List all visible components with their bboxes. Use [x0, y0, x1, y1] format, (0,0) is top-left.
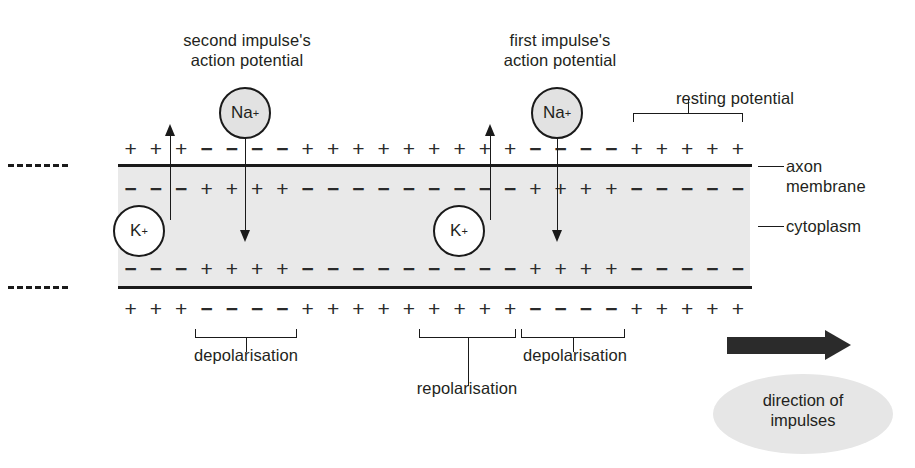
ion-potassium-right: K+: [433, 205, 485, 257]
charge-symbol: +: [219, 178, 244, 200]
axon-continuation-dash-bottom: [8, 286, 68, 289]
axon-continuation-dash-top: [8, 164, 68, 167]
charge-symbol: −: [270, 138, 295, 160]
charge-symbol: −: [396, 178, 421, 200]
charge-symbol: −: [295, 178, 320, 200]
charge-symbol: +: [599, 258, 624, 280]
charge-symbol: −: [219, 298, 244, 320]
label-second-impulse-action-potential: second impulse's action potential: [183, 30, 311, 70]
charge-symbol: +: [472, 138, 497, 160]
axon-membrane-top-line: [118, 164, 752, 167]
charge-symbol: +: [447, 138, 472, 160]
charge-symbol: +: [295, 298, 320, 320]
charge-symbol: +: [523, 178, 548, 200]
charge-symbol: +: [371, 298, 396, 320]
charge-symbol: +: [700, 138, 725, 160]
charge-row-outer-bottom: +++−−−−+++++++++−−−−+++++: [118, 298, 750, 320]
charge-symbol: −: [649, 258, 674, 280]
bracket-tick-right: [742, 113, 743, 122]
charge-symbol: −: [497, 258, 522, 280]
charge-symbol: −: [599, 298, 624, 320]
charge-symbol: −: [169, 178, 194, 200]
leader-line-axon-membrane: [758, 166, 784, 167]
charge-symbol: +: [169, 138, 194, 160]
charge-symbol: +: [320, 298, 345, 320]
charge-symbol: −: [320, 258, 345, 280]
charge-symbol: +: [194, 258, 219, 280]
charge-symbol: +: [396, 138, 421, 160]
charge-symbol: +: [573, 258, 598, 280]
charge-symbol: −: [624, 258, 649, 280]
charge-symbol: −: [422, 258, 447, 280]
charge-symbol: −: [725, 258, 750, 280]
charge-symbol: +: [497, 138, 522, 160]
bracket-tick-right: [296, 329, 297, 338]
charge-symbol: −: [700, 178, 725, 200]
charge-symbol: +: [725, 138, 750, 160]
charge-symbol: +: [725, 298, 750, 320]
charge-row-inner-bottom: −−−++++−−−−−−−−−++++−−−−−: [118, 258, 750, 280]
label-direction-of-impulses: direction of impulses: [763, 390, 844, 430]
charge-symbol: +: [599, 178, 624, 200]
charge-symbol: −: [118, 258, 143, 280]
charge-symbol: −: [675, 258, 700, 280]
charge-symbol: +: [320, 138, 345, 160]
ion-sodium-left-symbol: Na: [231, 103, 253, 123]
bracket-tick-right: [624, 329, 625, 338]
charge-symbol: −: [725, 178, 750, 200]
charge-symbol: −: [422, 178, 447, 200]
label-resting-potential: resting potential: [676, 88, 794, 108]
charge-symbol: −: [472, 258, 497, 280]
charge-symbol: −: [700, 258, 725, 280]
charge-symbol: −: [472, 178, 497, 200]
charge-symbol: −: [244, 298, 269, 320]
bracket-repolarisation: [419, 322, 516, 338]
charge-row-inner-top: −−−++++−−−−−−−−−++++−−−−−: [118, 178, 750, 200]
charge-symbol: −: [396, 258, 421, 280]
charge-symbol: +: [624, 138, 649, 160]
label-repolarisation: repolarisation: [417, 378, 517, 398]
charge-symbol: +: [472, 298, 497, 320]
charge-symbol: −: [244, 138, 269, 160]
charge-symbol: +: [270, 178, 295, 200]
charge-symbol: −: [346, 178, 371, 200]
charge-symbol: +: [295, 138, 320, 160]
charge-symbol: −: [169, 258, 194, 280]
charge-symbol: −: [346, 258, 371, 280]
charge-symbol: +: [548, 178, 573, 200]
axon-membrane-bottom-line: [118, 286, 752, 289]
charge-symbol: +: [548, 258, 573, 280]
charge-symbol: +: [624, 298, 649, 320]
charge-symbol: −: [143, 258, 168, 280]
charge-symbol: −: [447, 258, 472, 280]
charge-symbol: −: [624, 178, 649, 200]
charge-symbol: −: [573, 298, 598, 320]
bracket-bar: [633, 113, 743, 114]
ion-potassium-left: K+: [113, 205, 165, 257]
charge-symbol: −: [118, 178, 143, 200]
charge-symbol: +: [219, 258, 244, 280]
bracket-tick-center: [688, 99, 689, 113]
charge-symbol: +: [497, 298, 522, 320]
charge-symbol: +: [422, 298, 447, 320]
charge-symbol: +: [346, 138, 371, 160]
charge-symbol: +: [396, 298, 421, 320]
charge-symbol: −: [447, 178, 472, 200]
charge-symbol: +: [700, 298, 725, 320]
charge-symbol: −: [371, 258, 396, 280]
charge-symbol: +: [244, 258, 269, 280]
charge-symbol: −: [497, 178, 522, 200]
bracket-tick-left: [195, 329, 196, 338]
charge-symbol: −: [194, 138, 219, 160]
ion-sodium-right: Na+: [531, 87, 583, 139]
charge-symbol: −: [573, 138, 598, 160]
charge-symbol: +: [573, 178, 598, 200]
arrow-head: [825, 330, 851, 360]
charge-symbol: −: [599, 138, 624, 160]
label-axon-membrane: axon membrane: [786, 156, 866, 196]
charge-symbol: +: [270, 258, 295, 280]
charge-symbol: +: [371, 138, 396, 160]
charge-symbol: −: [295, 258, 320, 280]
charge-symbol: +: [523, 258, 548, 280]
charge-symbol: +: [675, 138, 700, 160]
